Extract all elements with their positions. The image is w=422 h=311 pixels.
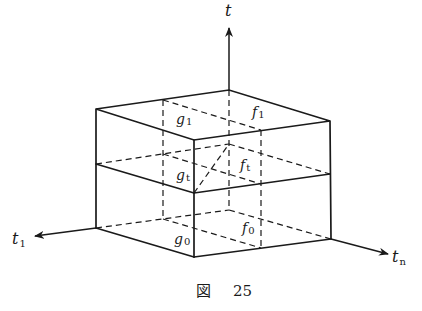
t1-axis-label: t1 (12, 229, 26, 249)
label-g0: g0 (174, 231, 190, 247)
label-g1: g1 (176, 111, 192, 127)
right-vertical-edge (330, 121, 331, 239)
tn-axis (331, 239, 388, 254)
f-plane-mid (194, 144, 229, 193)
label-f0: f0 (241, 220, 255, 236)
figure-caption-prefix: 図 (196, 282, 211, 300)
figure-caption-number: 25 (233, 282, 252, 300)
hidden-edges (96, 90, 331, 248)
tn-axis-label: tn (392, 247, 406, 267)
box-diagram: t t1 tn g1 f1 gt ft g0 f0 図 25 (0, 0, 422, 311)
front-right-mid-edge (194, 174, 330, 193)
label-f1: f1 (251, 104, 265, 120)
label-ft: ft (239, 157, 250, 173)
t-axis-label: t (225, 1, 232, 20)
label-gt: gt (176, 167, 190, 183)
t1-axis (35, 228, 96, 236)
front-right-bottom-edge (194, 239, 331, 257)
